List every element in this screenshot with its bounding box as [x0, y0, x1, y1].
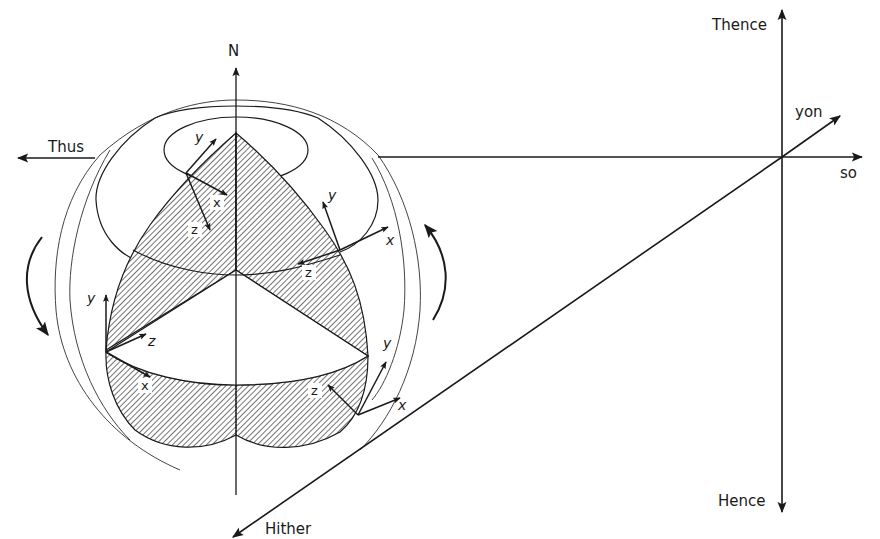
- left-rotation-arrow: [27, 237, 48, 335]
- frame-middle-left-y: y: [86, 290, 96, 306]
- hither-label: Hither: [265, 520, 312, 538]
- frame-bottom-right-y: y: [382, 335, 392, 351]
- frame-bottom-right-x: x: [397, 397, 407, 413]
- frame-top-right-z: z: [305, 265, 312, 280]
- right-rotation-arrow: [425, 225, 446, 320]
- frame-bottom-right-z: z: [311, 383, 318, 398]
- thus-label: Thus: [47, 138, 84, 156]
- yon-label: yon: [795, 103, 823, 121]
- sphere-coordinate-diagram: N Thus so Thence Hence yon Hither y x z …: [0, 0, 880, 539]
- frame-top-right-y: y: [327, 187, 337, 203]
- north-label: N: [228, 42, 239, 60]
- yon-axis: [782, 116, 840, 157]
- frame-top-left-z: z: [191, 222, 198, 237]
- hence-label: Hence: [718, 492, 766, 510]
- thence-label: Thence: [711, 16, 767, 34]
- frame-top-right-x: x: [385, 232, 395, 248]
- hatched-lunes: [106, 133, 368, 447]
- frame-middle-left-z: z: [147, 333, 156, 349]
- frame-top-left-y: y: [194, 129, 204, 145]
- so-label: so: [840, 164, 857, 182]
- frame-top-left-x: x: [213, 195, 221, 210]
- frame-middle-left-x: x: [141, 378, 149, 393]
